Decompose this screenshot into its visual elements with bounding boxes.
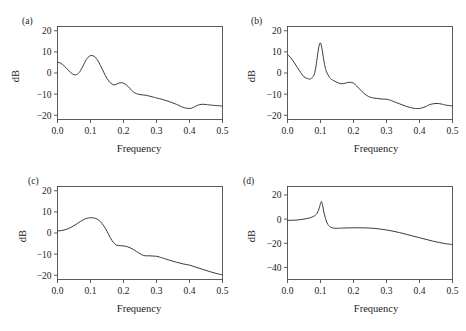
- y-tick-label: 20: [272, 26, 282, 36]
- y-tick-label: −20: [267, 239, 282, 249]
- y-tick-label: −40: [267, 263, 282, 273]
- multi-panel-spectrum-figure: (a) dB Frequency 0.00.10.20.30.40.5 2010…: [0, 0, 466, 331]
- panel-a-tag: (a): [22, 16, 33, 27]
- x-tick-label: 0.2: [348, 286, 360, 296]
- panel-b-y-tick-labels: 20100−10−20: [267, 26, 282, 121]
- panel-d-plot-area: [284, 187, 453, 284]
- panel-c-x-tick-labels: 0.00.10.20.30.40.5: [52, 286, 229, 296]
- panel-a-y-ticks: [54, 31, 58, 116]
- x-tick-label: 0.1: [85, 126, 97, 136]
- panel-a-curve: [58, 55, 223, 108]
- panel-b-ylabel: dB: [246, 70, 257, 82]
- y-tick-label: −10: [37, 90, 52, 100]
- panel-c-tag: (c): [28, 176, 39, 187]
- x-tick-label: 0.3: [381, 286, 393, 296]
- panel-b-y-ticks: [284, 31, 288, 116]
- x-tick-label: 0.0: [282, 286, 294, 296]
- panel-c-y-ticks: [54, 191, 58, 276]
- panel-a-x-tick-labels: 0.00.10.20.30.40.5: [52, 126, 229, 136]
- panel-c-curve: [58, 218, 223, 275]
- panel-b: (b) dB Frequency 0.00.10.20.30.40.5 2010…: [233, 0, 466, 165]
- panel-b-curve: [288, 43, 453, 109]
- panel-a-x-ticks: [58, 120, 223, 124]
- panel-d-xlabel: Frequency: [354, 303, 399, 314]
- y-tick-label: 0: [47, 228, 52, 238]
- x-tick-label: 0.2: [118, 286, 130, 296]
- y-tick-label: 0: [47, 68, 52, 78]
- x-tick-label: 0.4: [414, 126, 426, 136]
- panel-d: (d) dB Frequency 0.00.10.20.30.40.5 200−…: [233, 166, 466, 331]
- x-tick-label: 0.0: [52, 126, 64, 136]
- x-tick-label: 0.1: [85, 286, 97, 296]
- panel-c-plot-area: [54, 187, 223, 284]
- panel-c-ylabel: dB: [17, 230, 28, 242]
- panel-d-ylabel: dB: [246, 230, 257, 242]
- y-tick-label: 0: [277, 215, 282, 225]
- x-tick-label: 0.2: [348, 126, 360, 136]
- x-tick-label: 0.0: [282, 126, 294, 136]
- x-tick-label: 0.3: [151, 126, 163, 136]
- x-tick-label: 0.3: [151, 286, 163, 296]
- y-tick-label: −20: [37, 111, 52, 121]
- x-tick-label: 0.5: [447, 286, 459, 296]
- panel-b-x-tick-labels: 0.00.10.20.30.40.5: [282, 126, 459, 136]
- x-tick-label: 0.3: [381, 126, 393, 136]
- y-tick-label: 10: [42, 207, 52, 217]
- panel-d-x-tick-labels: 0.00.10.20.30.40.5: [282, 286, 459, 296]
- panel-a-xlabel: Frequency: [117, 143, 162, 154]
- panel-c-xlabel: Frequency: [117, 303, 162, 314]
- y-tick-label: −20: [267, 111, 282, 121]
- x-tick-label: 0.1: [315, 126, 327, 136]
- panel-a-plot-area: [54, 27, 223, 124]
- y-tick-label: −20: [37, 271, 52, 281]
- y-tick-label: 20: [42, 26, 52, 36]
- x-tick-label: 0.4: [184, 286, 196, 296]
- panel-b-plot-area: [284, 27, 453, 124]
- x-tick-label: 0.1: [315, 286, 327, 296]
- y-tick-label: −10: [37, 250, 52, 260]
- panel-a-ylabel: dB: [10, 70, 21, 82]
- y-tick-label: −10: [267, 90, 282, 100]
- panel-b-xlabel: Frequency: [354, 143, 399, 154]
- panel-c-x-ticks: [58, 280, 223, 284]
- y-tick-label: 20: [42, 186, 52, 196]
- panel-d-tag: (d): [243, 176, 254, 187]
- panel-c-y-tick-labels: 20100−10−20: [37, 186, 52, 281]
- panel-d-y-tick-labels: 200−20−40: [267, 190, 282, 272]
- x-tick-label: 0.4: [184, 126, 196, 136]
- y-tick-label: 10: [42, 47, 52, 57]
- panel-a-y-tick-labels: 20100−10−20: [37, 26, 52, 121]
- panel-a: (a) dB Frequency 0.00.10.20.30.40.5 2010…: [0, 0, 233, 165]
- panel-d-curve: [288, 201, 453, 244]
- x-tick-label: 0.4: [414, 286, 426, 296]
- panel-c: (c) dB Frequency 0.00.10.20.30.40.5 2010…: [0, 166, 233, 331]
- panel-d-y-ticks: [284, 195, 288, 267]
- x-tick-label: 0.5: [447, 126, 459, 136]
- x-tick-label: 0.5: [217, 126, 229, 136]
- x-tick-label: 0.0: [52, 286, 64, 296]
- panel-d-x-ticks: [288, 280, 453, 284]
- y-tick-label: 20: [272, 190, 282, 200]
- y-tick-label: 0: [277, 68, 282, 78]
- y-tick-label: 10: [272, 47, 282, 57]
- panel-b-x-ticks: [288, 120, 453, 124]
- x-tick-label: 0.5: [217, 286, 229, 296]
- panel-b-tag: (b): [251, 16, 262, 27]
- x-tick-label: 0.2: [118, 126, 130, 136]
